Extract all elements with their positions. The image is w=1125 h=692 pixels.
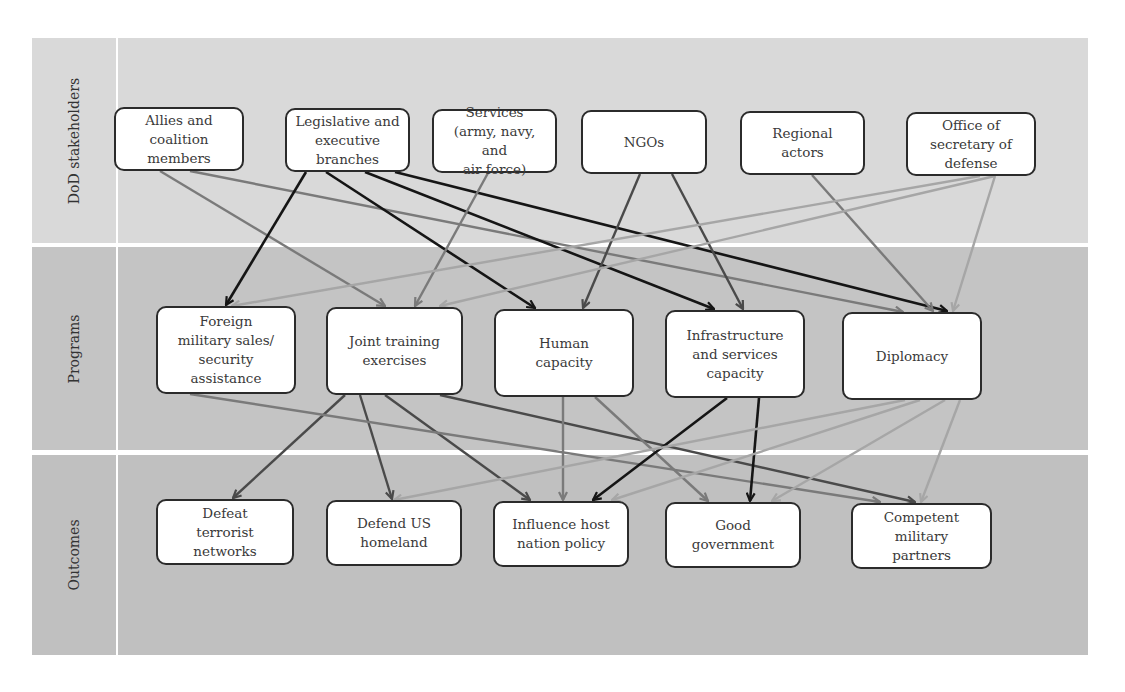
band-label-outcomes: Outcomes xyxy=(66,519,82,590)
band-label-dod-stakeholders: DoD stakeholders xyxy=(66,77,82,203)
node-label: Regional actors xyxy=(772,124,832,162)
node-joint-training-exercises[interactable]: Joint training exercises xyxy=(326,307,463,395)
node-allies-and-coalition-members[interactable]: Allies and coalition members xyxy=(114,107,244,171)
node-label: Office of secretary of defense xyxy=(930,116,1012,173)
band-label-cell: Outcomes xyxy=(32,455,116,655)
node-regional-actors[interactable]: Regional actors xyxy=(740,111,865,175)
node-legislative-and-executive-branches[interactable]: Legislative and executive branches xyxy=(285,108,410,172)
band-separator xyxy=(116,455,118,655)
node-influence-host-nation-policy[interactable]: Influence host nation policy xyxy=(493,501,629,567)
node-good-government[interactable]: Good government xyxy=(665,502,801,568)
node-label: Defend US homeland xyxy=(357,514,431,552)
stakeholder-program-outcome-diagram: DoD stakeholders Programs Outcomes xyxy=(0,0,1125,692)
node-infrastructure-and-services-capacity[interactable]: Infrastructure and services capacity xyxy=(665,310,805,398)
node-label: Services (army, navy, and air force) xyxy=(440,103,549,179)
node-label: Defeat terrorist networks xyxy=(193,504,256,561)
node-label: NGOs xyxy=(624,133,665,152)
node-office-of-secretary-of-defense[interactable]: Office of secretary of defense xyxy=(906,112,1036,176)
node-foreign-military-sales[interactable]: Foreign military sales/ security assista… xyxy=(156,306,296,394)
node-ngos[interactable]: NGOs xyxy=(581,110,707,174)
band-label-programs: Programs xyxy=(66,314,82,383)
node-label: Diplomacy xyxy=(876,347,948,366)
node-services[interactable]: Services (army, navy, and air force) xyxy=(432,109,557,173)
node-diplomacy[interactable]: Diplomacy xyxy=(842,312,982,400)
node-label: Infrastructure and services capacity xyxy=(686,326,783,383)
band-label-cell: DoD stakeholders xyxy=(32,38,116,243)
node-label: Foreign military sales/ security assista… xyxy=(178,312,274,388)
node-label: Good government xyxy=(692,516,774,554)
node-human-capacity[interactable]: Human capacity xyxy=(494,309,634,397)
node-label: Legislative and executive branches xyxy=(295,112,399,169)
band-label-cell: Programs xyxy=(32,247,116,450)
node-competent-military-partners[interactable]: Competent military partners xyxy=(851,503,992,569)
node-label: Joint training exercises xyxy=(349,332,440,370)
node-label: Allies and coalition members xyxy=(145,111,212,168)
node-defend-us-homeland[interactable]: Defend US homeland xyxy=(326,500,462,566)
node-label: Competent military partners xyxy=(884,508,959,565)
node-label: Influence host nation policy xyxy=(512,515,609,553)
node-label: Human capacity xyxy=(535,334,592,372)
node-defeat-terrorist-networks[interactable]: Defeat terrorist networks xyxy=(156,499,294,565)
band-separator xyxy=(116,247,118,450)
